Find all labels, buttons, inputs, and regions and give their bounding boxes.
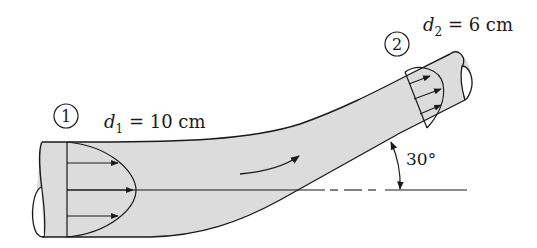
angle-label: 30°: [406, 149, 436, 169]
diameter-var: d: [423, 14, 435, 35]
pipe-body: [33, 52, 472, 237]
diameter-sub: 1: [116, 122, 124, 136]
diameter-sub: 2: [435, 25, 443, 39]
section1-number: 1: [61, 107, 71, 126]
diameter-value: = 10 cm: [123, 111, 205, 132]
pipe-bend-diagram: 30° 1 d1 = 10 cm 2 d2 = 6 cm: [0, 0, 537, 248]
angle-arc: [391, 142, 400, 189]
section1-label: 1 d1 = 10 cm: [54, 104, 205, 136]
pipe-fill: [35, 53, 472, 237]
section2-number: 2: [392, 35, 402, 54]
section2-diameter: d2 = 6 cm: [423, 14, 513, 39]
section2-label: 2 d2 = 6 cm: [385, 14, 513, 56]
diameter-value: = 6 cm: [442, 14, 513, 35]
section1-diameter: d1 = 10 cm: [104, 111, 205, 136]
angle-indicator: 30°: [391, 142, 436, 189]
diameter-var: d: [104, 111, 116, 132]
